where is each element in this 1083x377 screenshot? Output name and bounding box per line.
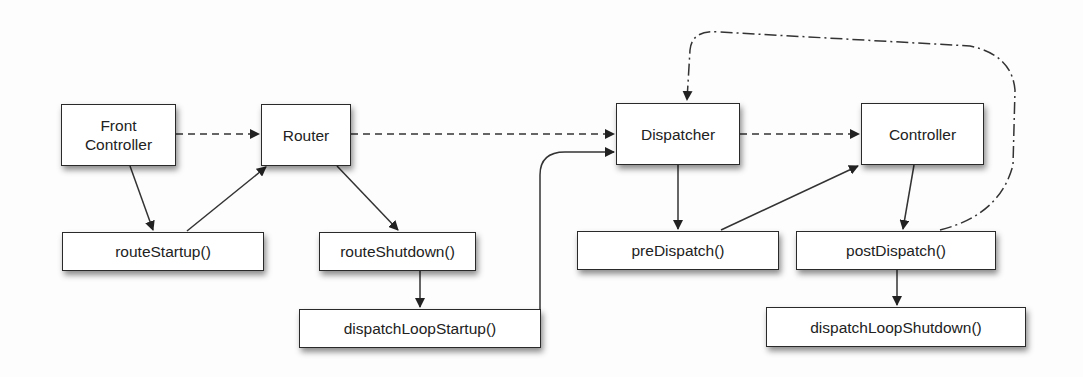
node-label: Router	[283, 126, 330, 145]
node-controller: Controller	[861, 103, 984, 165]
node-label: Dispatcher	[641, 125, 715, 144]
edge-router-routeshutdown	[337, 166, 398, 230]
node-post-dispatch: postDispatch()	[796, 231, 996, 270]
dispatch-flow-diagram: Front Controller Router Dispatcher Contr…	[0, 0, 1083, 377]
node-router: Router	[261, 104, 351, 166]
node-route-startup: routeStartup()	[62, 232, 264, 271]
edge-predispatch-controller	[721, 166, 858, 230]
node-label: postDispatch()	[846, 241, 946, 260]
edge-routestartup-router	[187, 167, 266, 231]
node-label: routeStartup()	[115, 242, 211, 261]
node-dispatch-loop-shutdown: dispatchLoopShutdown()	[766, 307, 1026, 347]
node-label: preDispatch()	[631, 241, 724, 260]
node-label: dispatchLoopStartup()	[344, 319, 497, 338]
node-dispatcher: Dispatcher	[616, 103, 740, 165]
node-label: routeShutdown()	[340, 242, 455, 261]
node-pre-dispatch: preDispatch()	[577, 231, 779, 270]
edge-controller-postdispatch	[903, 165, 914, 229]
node-dispatch-loop-startup: dispatchLoopStartup()	[299, 309, 541, 348]
node-label: Front Controller	[85, 116, 152, 154]
node-route-shutdown: routeShutdown()	[319, 232, 476, 271]
node-label: dispatchLoopShutdown()	[810, 318, 981, 337]
node-front-controller: Front Controller	[61, 104, 176, 166]
edge-frontcontroller-routestartup	[130, 166, 153, 230]
node-label: Controller	[889, 125, 956, 144]
